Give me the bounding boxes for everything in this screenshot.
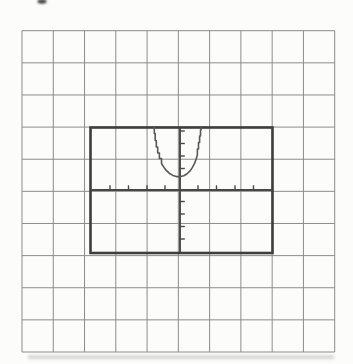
scan-artifact-top-smudge bbox=[38, 0, 47, 4]
figure-svg bbox=[0, 0, 353, 364]
grid-paper bbox=[22, 31, 335, 352]
figure-grid-paper-parabola bbox=[0, 0, 353, 364]
axes bbox=[91, 128, 273, 253]
top-smudge-mark bbox=[38, 0, 47, 4]
bottom-shadow-mark bbox=[28, 356, 334, 359]
scan-artifact-bottom-shadow bbox=[28, 356, 334, 359]
parabola-polyline bbox=[154, 128, 201, 177]
parabola-curve bbox=[154, 128, 201, 177]
